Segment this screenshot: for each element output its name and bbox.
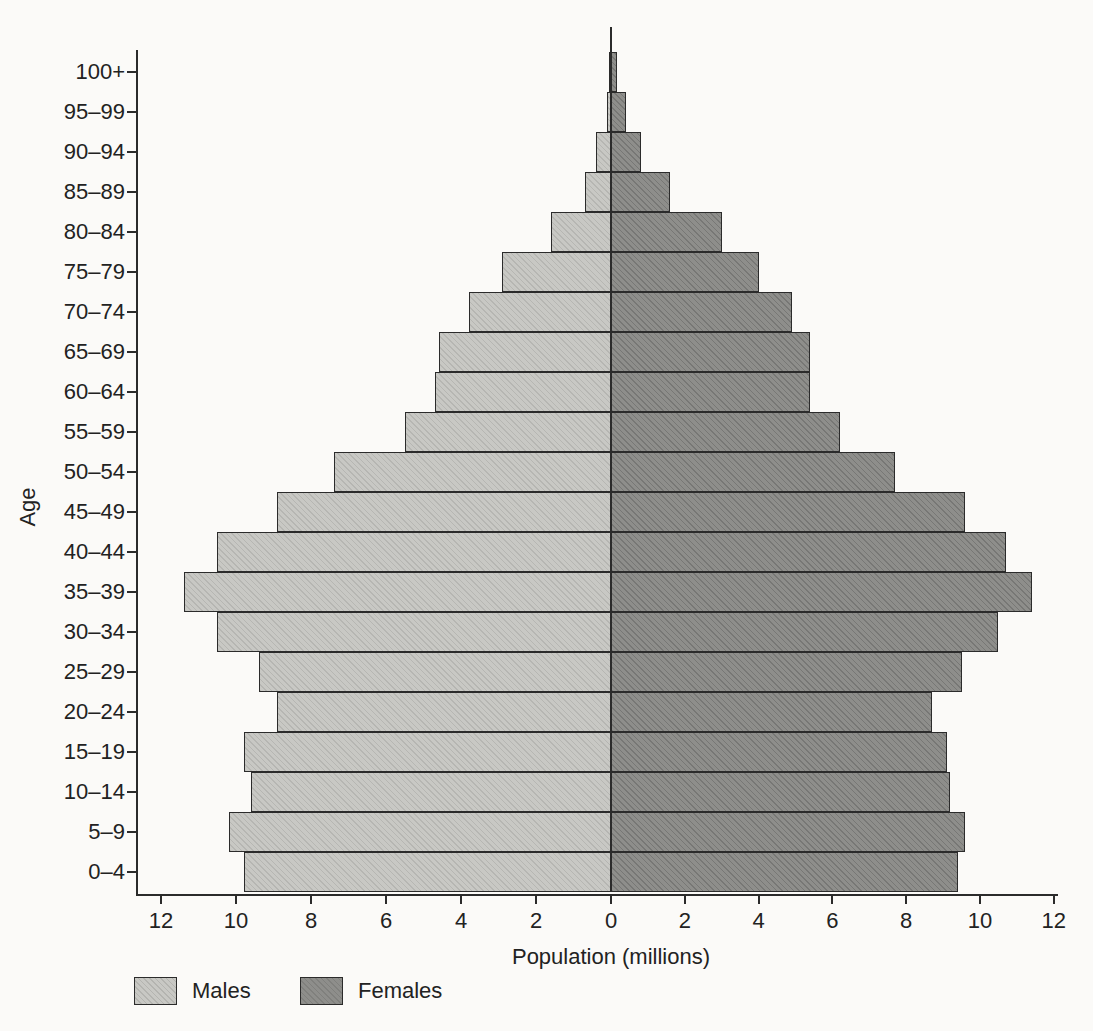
- y-tick: [127, 311, 136, 313]
- x-axis-line: [136, 894, 1058, 896]
- y-tick: [127, 791, 136, 793]
- y-tick: [127, 471, 136, 473]
- x-tick: [160, 894, 162, 904]
- male-bar: [551, 212, 611, 252]
- y-tick-label: 40–44: [64, 541, 125, 563]
- male-bar: [277, 492, 611, 532]
- female-bar: [611, 452, 895, 492]
- y-tick: [127, 351, 136, 353]
- female-bar: [611, 372, 810, 412]
- y-tick: [127, 511, 136, 513]
- y-tick-label: 0–4: [88, 861, 125, 883]
- female-bar: [611, 692, 932, 732]
- male-bar: [502, 252, 611, 292]
- x-tick-label: 10: [950, 910, 1010, 932]
- female-bar: [611, 92, 626, 132]
- x-tick: [979, 894, 981, 904]
- female-bar: [611, 252, 759, 292]
- y-tick-label: 25–29: [64, 661, 125, 683]
- male-bar: [184, 572, 612, 612]
- male-bar: [259, 652, 612, 692]
- y-tick: [127, 591, 136, 593]
- male-bar: [405, 412, 611, 452]
- y-tick: [127, 231, 136, 233]
- y-tick: [127, 431, 136, 433]
- y-tick-label: 45–49: [64, 501, 125, 523]
- y-tick-label: 30–34: [64, 621, 125, 643]
- female-bar: [611, 492, 965, 532]
- x-tick-label: 8: [876, 910, 936, 932]
- x-tick-label: 6: [802, 910, 862, 932]
- x-tick: [831, 894, 833, 904]
- legend-label-females: Females: [358, 977, 442, 1005]
- y-tick-label: 35–39: [64, 581, 125, 603]
- y-tick-label: 50–54: [64, 461, 125, 483]
- female-bar: [611, 172, 670, 212]
- y-tick-label: 65–69: [64, 341, 125, 363]
- y-tick-label: 100+: [75, 61, 125, 83]
- x-tick-label: 2: [506, 910, 566, 932]
- y-tick: [127, 191, 136, 193]
- male-bar: [251, 772, 611, 812]
- x-tick: [905, 894, 907, 904]
- x-tick-label: 12: [131, 910, 191, 932]
- legend-swatch-males: [134, 977, 177, 1005]
- y-tick: [127, 151, 136, 153]
- y-tick: [127, 831, 136, 833]
- y-tick: [127, 671, 136, 673]
- male-bar: [217, 612, 611, 652]
- y-tick-label: 5–9: [88, 821, 125, 843]
- x-tick-label: 8: [281, 910, 341, 932]
- male-bar: [585, 172, 611, 212]
- male-bar: [435, 372, 611, 412]
- female-bar: [611, 852, 958, 892]
- y-tick-label: 15–19: [64, 741, 125, 763]
- y-tick: [127, 111, 136, 113]
- center-axis-stub: [610, 27, 612, 53]
- y-tick: [127, 711, 136, 713]
- male-bar: [244, 852, 612, 892]
- x-axis-title: Population (millions): [0, 944, 1093, 970]
- x-tick: [1053, 894, 1055, 904]
- y-tick-label: 20–24: [64, 701, 125, 723]
- female-bar: [611, 772, 950, 812]
- x-tick-label: 10: [206, 910, 266, 932]
- y-tick-label: 55–59: [64, 421, 125, 443]
- female-bar: [611, 732, 947, 772]
- male-bar: [439, 332, 612, 372]
- male-bar: [469, 292, 612, 332]
- female-bar: [611, 52, 617, 92]
- y-tick-label: 75–79: [64, 261, 125, 283]
- x-tick: [460, 894, 462, 904]
- female-bar: [611, 412, 840, 452]
- y-tick-label: 60–64: [64, 381, 125, 403]
- female-bar: [611, 612, 998, 652]
- y-tick-label: 10–14: [64, 781, 125, 803]
- y-tick: [127, 551, 136, 553]
- x-tick: [758, 894, 760, 904]
- y-tick: [127, 631, 136, 633]
- y-tick-label: 90–94: [64, 141, 125, 163]
- y-tick-label: 95–99: [64, 101, 125, 123]
- x-tick-label: 4: [431, 910, 491, 932]
- female-bar: [611, 812, 965, 852]
- legend-swatch-females: [300, 977, 343, 1005]
- x-tick: [310, 894, 312, 904]
- y-axis-title: Age: [15, 465, 41, 549]
- population-pyramid-chart: Age Population (millions) Males Females …: [0, 0, 1093, 1031]
- female-bar: [611, 292, 792, 332]
- male-bar: [229, 812, 612, 852]
- y-tick: [127, 871, 136, 873]
- x-tick-label: 2: [655, 910, 715, 932]
- legend-label-males: Males: [192, 977, 251, 1005]
- x-tick-label: 6: [356, 910, 416, 932]
- x-tick-label: 0: [581, 910, 641, 932]
- male-bar: [217, 532, 611, 572]
- x-tick: [610, 894, 612, 904]
- female-bar: [611, 212, 722, 252]
- y-axis-line: [136, 50, 138, 896]
- y-tick-label: 85–89: [64, 181, 125, 203]
- male-bar: [334, 452, 612, 492]
- female-bar: [611, 532, 1006, 572]
- y-tick: [127, 271, 136, 273]
